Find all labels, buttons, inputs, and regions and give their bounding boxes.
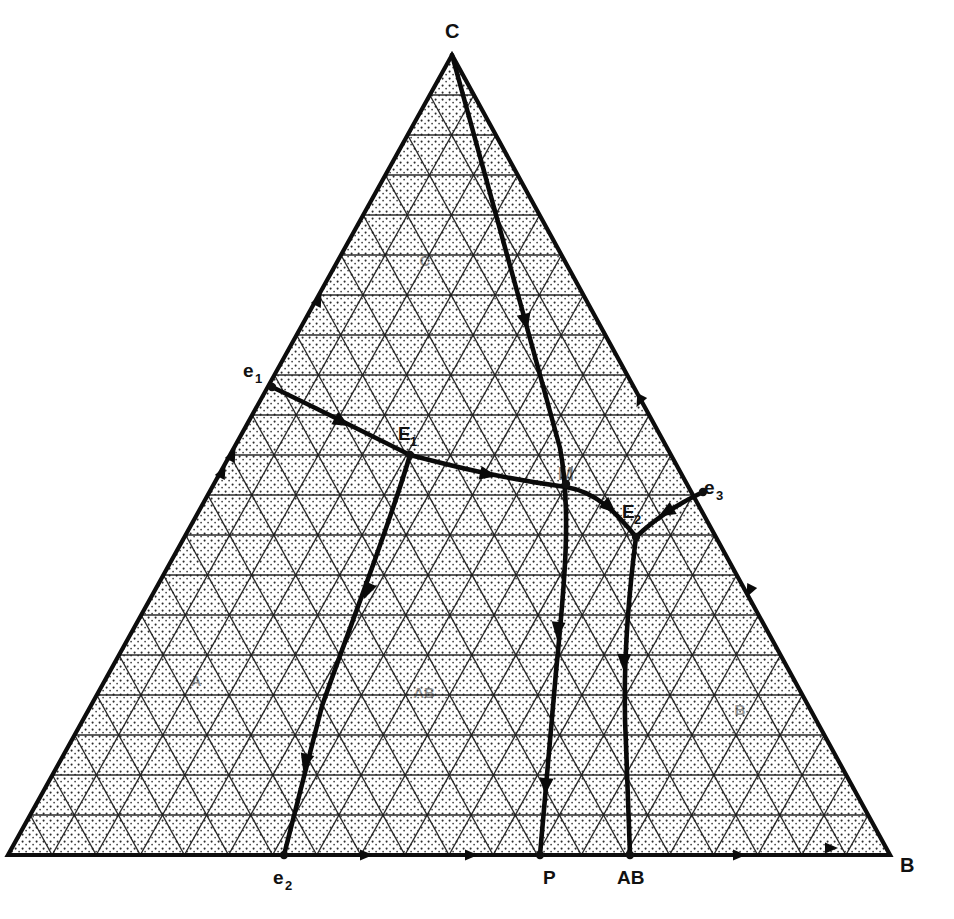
point-marker-P — [536, 851, 544, 859]
label-P: P — [543, 867, 556, 888]
point-marker-E1 — [406, 451, 414, 459]
label-text-AB: AB — [617, 867, 644, 888]
vertex-label-B: B — [900, 854, 914, 876]
point-marker-e1 — [268, 383, 276, 391]
label-text-e3: e — [704, 477, 715, 498]
label-e3: e3 — [704, 477, 723, 503]
label-text-e1: e — [243, 360, 254, 381]
label-text-M: M — [558, 463, 574, 484]
field-label-field-B: B — [735, 701, 746, 718]
label-subscript-e3: 3 — [716, 488, 723, 503]
label-e2: e2 — [273, 867, 292, 893]
label-text-E2: E — [622, 501, 635, 522]
ternary-phase-diagram: CAABB e1e2e3E1E2PABM CB — [0, 0, 954, 919]
point-marker-E2 — [632, 533, 640, 541]
point-marker-AB — [626, 851, 634, 859]
label-e1: e1 — [243, 360, 262, 386]
point-marker-e2 — [280, 851, 288, 859]
label-subscript-E1: 1 — [410, 434, 417, 449]
phase-diagram-canvas: CAABB e1e2e3E1E2PABM CB — [0, 0, 954, 919]
label-text-P: P — [543, 867, 556, 888]
label-subscript-e2: 2 — [285, 878, 292, 893]
label-text-e2: e — [273, 867, 284, 888]
field-label-field-A: A — [191, 672, 202, 689]
field-label-field-AB: AB — [413, 684, 435, 701]
label-text-E1: E — [398, 423, 411, 444]
vertex-label-C: C — [445, 20, 459, 42]
label-subscript-E2: 2 — [634, 512, 641, 527]
label-subscript-e1: 1 — [255, 371, 262, 386]
field-label-field-C: C — [420, 252, 431, 269]
label-M: M — [558, 463, 574, 484]
label-AB: AB — [617, 867, 644, 888]
